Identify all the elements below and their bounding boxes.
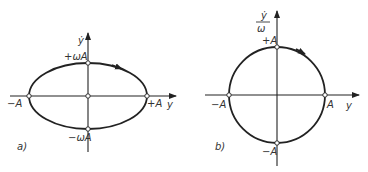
panel-a: ẏ +ωA −ωA −A +A y a) bbox=[7, 33, 176, 152]
left-label: −A bbox=[7, 98, 22, 109]
bottom-label: −A bbox=[262, 146, 277, 157]
point-origin bbox=[86, 94, 90, 98]
top-label: +A bbox=[262, 35, 277, 46]
y-axis-label: ẏ bbox=[77, 35, 85, 46]
bottom-label: −ωA bbox=[68, 132, 92, 143]
point-left bbox=[227, 93, 231, 97]
panel-tag: a) bbox=[17, 141, 27, 152]
point-bottom bbox=[86, 127, 90, 131]
y-axis-label-numerator: ẏ bbox=[260, 10, 268, 21]
top-label: +ωA bbox=[64, 51, 88, 62]
y-axis-label-denominator: ω bbox=[257, 23, 265, 34]
panel-b: ẏ ω +A −A −A A y b) bbox=[205, 10, 359, 166]
x-axis-label: y bbox=[166, 99, 174, 110]
x-axis-label: y bbox=[345, 100, 353, 111]
right-label: A bbox=[326, 99, 334, 110]
left-label: −A bbox=[211, 99, 226, 110]
point-right bbox=[323, 93, 327, 97]
point-left bbox=[27, 94, 31, 98]
panel-tag: b) bbox=[215, 141, 225, 152]
phase-diagrams: ẏ +ωA −ωA −A +A y a) ẏ ω +A −A −A A y b) bbox=[0, 0, 368, 172]
right-label: +A bbox=[147, 98, 162, 109]
point-bottom bbox=[275, 141, 279, 145]
